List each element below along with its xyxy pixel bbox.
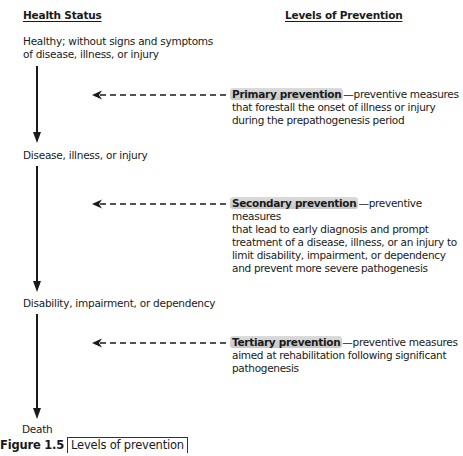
primary-prevention-label: Primary prevention — [230, 88, 343, 100]
arrow-down-icon — [33, 132, 41, 143]
arrow-down-icon — [33, 281, 41, 292]
health-state-healthy: Healthy; without signs and symptoms of d… — [23, 35, 213, 61]
dashed-arrow-left-icon — [92, 89, 232, 101]
tertiary-prevention-label: Tertiary prevention — [230, 336, 342, 348]
figure-caption: Figure 1.5Levels of prevention — [0, 438, 188, 452]
health-state-death: Death — [22, 423, 53, 436]
secondary-prevention-block: Secondary prevention—preventive measures… — [232, 197, 463, 275]
arrow-down-icon — [33, 408, 41, 419]
health-status-header: Health Status — [23, 9, 102, 21]
primary-prevention-block: Primary prevention—preventive measures t… — [232, 88, 463, 127]
health-state-disability: Disability, impairment, or dependency — [23, 297, 215, 310]
progression-line-3 — [36, 314, 38, 410]
tertiary-prevention-block: Tertiary prevention—preventive measures … — [232, 336, 463, 375]
dashed-arrow-left-icon — [92, 337, 232, 349]
dashed-arrow-left-icon — [92, 198, 232, 210]
secondary-prevention-label: Secondary prevention — [230, 197, 358, 209]
figure-title: Levels of prevention — [67, 437, 188, 453]
progression-line-1 — [36, 66, 38, 134]
figure-label: Figure 1.5 — [0, 438, 64, 452]
progression-line-2 — [36, 166, 38, 282]
health-state-disease: Disease, illness, or injury — [23, 149, 147, 162]
levels-of-prevention-header: Levels of Prevention — [285, 9, 402, 21]
